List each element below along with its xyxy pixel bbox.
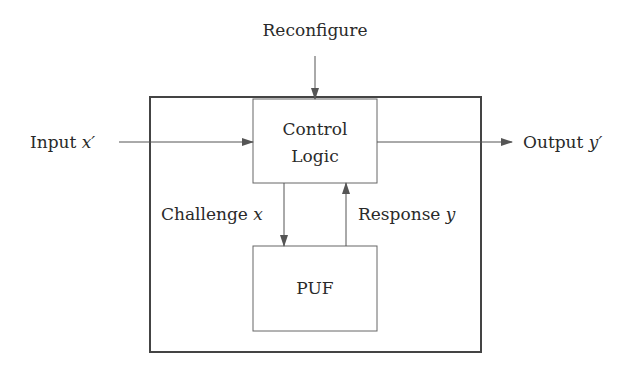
reconfigure-label: Reconfigure (263, 20, 368, 40)
control-logic-label-line1: Control (283, 119, 348, 139)
control-logic-label-line2: Logic (291, 146, 338, 166)
output-label: Output y′ (523, 132, 602, 152)
puf-block-diagram: Control Logic PUF Reconfigure Input x′ O… (0, 0, 643, 375)
response-label: Response y (358, 204, 456, 224)
control-logic-block: Control Logic (253, 99, 377, 183)
input-label: Input x′ (30, 132, 95, 152)
puf-label: PUF (296, 278, 333, 298)
puf-block: PUF (253, 246, 377, 331)
challenge-label: Challenge x (161, 204, 263, 224)
